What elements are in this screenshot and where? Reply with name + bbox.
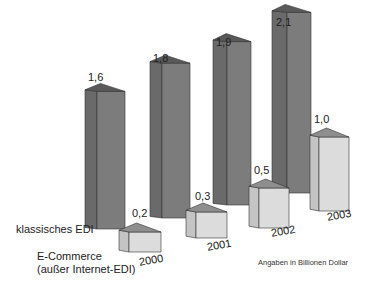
bar-ec-2003-front: [319, 137, 349, 211]
bar-edi-2000-top: [85, 83, 125, 91]
bar-ec-2002-side: [249, 186, 259, 228]
bar-edi-2003-front: [287, 12, 311, 193]
bar-ec-2001-side: [186, 210, 196, 238]
bar-edi-2000-side: [85, 90, 97, 229]
value-label-edi-2001: 1,8: [153, 52, 168, 64]
legend-ecommerce-label-line2: (außer Internet-EDI): [37, 263, 135, 275]
value-label-edi-2003: 2,1: [276, 16, 291, 28]
chart-canvas: [0, 0, 365, 283]
bar-ec-2003-top: [310, 128, 349, 137]
bar-ec-2002-front: [259, 188, 289, 228]
value-label-ec-2001: 0,3: [195, 190, 210, 202]
bar-edi-2003-side: [272, 11, 287, 193]
bar-ec-2001-front: [196, 212, 227, 238]
bar-edi-2001-side: [150, 62, 162, 218]
bar-ec-2003-side: [310, 135, 319, 211]
value-label-ec-2000: 0,2: [132, 207, 147, 219]
value-label-edi-2002: 1,9: [216, 36, 231, 48]
bar-edi-2003-top: [272, 4, 311, 12]
bar-ec-2000-side: [119, 230, 129, 252]
bar-ec-2000-front: [129, 232, 161, 252]
bar-edi-2001-front: [162, 63, 190, 218]
bar-edi-2002-front: [227, 42, 251, 205]
legend-ecommerce-label-line1: E-Commerce: [37, 250, 102, 262]
value-label-edi-2000: 1,6: [88, 71, 103, 83]
bar-edi-2000-front: [97, 91, 125, 229]
bar-edi-2002-side: [213, 40, 227, 205]
value-label-ec-2002: 0,5: [254, 164, 269, 176]
unit-note: Angaben in Billionen Dollar: [258, 258, 348, 267]
value-label-ec-2003: 1,0: [314, 113, 329, 125]
legend-edi-label: klassisches EDI: [16, 223, 94, 235]
